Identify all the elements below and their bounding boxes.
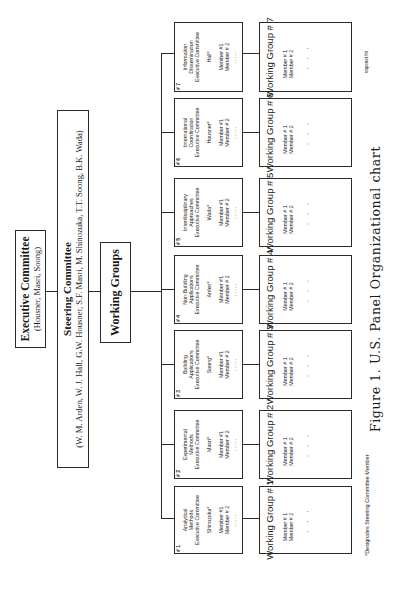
committee-box-4: # 4 Non-BuildingApplicationsExecutive Co… (174, 255, 243, 324)
committee-members: Member #1Member # 2 (218, 275, 230, 303)
committee-number: # 6 (175, 158, 181, 165)
working-group-title: Working Group # 7 (264, 17, 275, 97)
working-group-members: Member # 1Member # 2 (282, 437, 294, 465)
committee-name: InformationDisseminationExecutive Commit… (182, 32, 200, 82)
stub-committee-5 (161, 212, 174, 213)
stub-committee-7 (161, 53, 174, 54)
connector-wg-4 (243, 289, 259, 290)
committee-name: ExperimentalMethodsExecutive Committee (182, 419, 200, 469)
working-group-box-6: Working Group # 6 Member # 1Member # 2 .… (259, 98, 352, 167)
working-group-title: Working Group # 2 (264, 405, 275, 485)
committee-more: ..... (231, 438, 237, 451)
working-group-box-4: Working Group # 4 Member # 1Member # 2 .… (259, 255, 352, 324)
committee-members: Member #1Member # 2 (218, 430, 230, 458)
stub-committee-4 (161, 289, 174, 290)
steering-committee-box: Steering Committee (W. M. Arden, W. J. H… (57, 110, 89, 468)
committee-number: # 4 (175, 315, 181, 322)
committee-name: Non-BuildingApplicationsExecutive Commit… (182, 264, 200, 314)
figure-caption: Figure 1. U.S. Panel Organizational char… (368, 146, 383, 432)
working-group-members: Member # 1Member # 2 (282, 357, 294, 385)
footnote: *Designates Steering Committee Member (364, 455, 370, 557)
working-group-more: . . . (302, 200, 309, 225)
stub-committee-3 (161, 364, 174, 365)
committee-more: ..... (231, 283, 237, 296)
committee-box-7: # 7 InformationDisseminationExecutive Co… (174, 22, 243, 92)
committee-number: # 7 (175, 83, 181, 90)
connector-wg-3 (243, 364, 259, 365)
committee-name: BuildingApplicationsExecutive Committee (182, 339, 200, 389)
working-group-box-7: Working Group # 7 Member # 1Member # 2 .… (259, 22, 352, 92)
committee-more: ..... (231, 126, 237, 139)
stub-committee-2 (161, 444, 174, 445)
working-group-title: Working Group # 5 (264, 173, 275, 253)
committee-number: # 5 (175, 238, 181, 245)
committee-lead: Shinozuka* (206, 507, 212, 534)
committee-more: ..... (231, 206, 237, 219)
committee-members: Member #1Member # 2 (218, 350, 230, 378)
file-reference: vapenet.fm (364, 51, 369, 73)
committee-members: Member #1Member # 2 (218, 198, 230, 226)
stub-committee-1 (161, 518, 174, 519)
working-group-more: . . . (302, 352, 309, 377)
committee-name: AnalyticalMethodsExecutive Committee (182, 495, 200, 545)
committee-lead: Hall* (206, 51, 212, 62)
committee-number: # 1 (175, 545, 181, 552)
working-group-title: Working Group # 4 (264, 250, 275, 330)
working-groups-box: Working Groups (100, 242, 131, 343)
executive-committee-title: Executive Committee (19, 236, 32, 341)
committee-lead: Masri* (206, 437, 212, 452)
stub-committee-6 (161, 132, 174, 133)
connector-wg-7 (243, 53, 259, 54)
working-group-box-2: Working Group # 2 Member # 1Member # 2 .… (259, 410, 352, 479)
connector-wg-2 (243, 444, 259, 445)
committee-lead: Soong* (206, 356, 212, 373)
working-group-members: Member # 1Member # 2 (282, 513, 294, 541)
committee-more: ..... (231, 513, 237, 526)
executive-committee-box: Executive Committee (Housner, Masri, Soo… (15, 230, 46, 348)
committee-lead: Wada* (206, 205, 212, 221)
executive-committee-members: (Housner, Masri, Soong) (32, 247, 42, 331)
connector-wg-5 (243, 212, 259, 213)
committee-box-6: # 6 InternationalCoordinationExecutive C… (174, 98, 243, 167)
connector-wg-bus (131, 291, 161, 292)
committee-name: InterdisciplinaryApproachesExecutive Com… (182, 187, 200, 237)
bus-line (161, 53, 162, 519)
working-group-box-1: Working Group # 1 Member # 1Member # 2 .… (259, 486, 352, 554)
working-group-members: Member # 1Member # 2 (282, 282, 294, 310)
committee-box-5: # 5 InterdisciplinaryApproachesExecutive… (174, 178, 243, 247)
steering-committee-members: (W. M. Arden, W. J. Hall, G.W. Housner, … (74, 130, 85, 447)
working-group-more: . . . (302, 45, 309, 70)
committee-number: # 2 (175, 470, 181, 477)
working-group-more: . . . (302, 277, 309, 302)
committee-members: Member #1Member # 2 (218, 43, 230, 71)
committee-lead: Housner* (206, 121, 212, 143)
working-group-more: . . . (302, 120, 309, 145)
committee-number: # 3 (175, 390, 181, 397)
connector-wg-1 (243, 518, 259, 519)
org-chart: Executive Committee (Housner, Masri, Soo… (0, 0, 393, 600)
committee-box-1: # 1 AnalyticalMethodsExecutive Committee… (174, 486, 243, 554)
working-group-members: Member # 1Member # 2 (282, 125, 294, 153)
committee-box-2: # 2 ExperimentalMethodsExecutive Committ… (174, 410, 243, 479)
working-group-title: Working Group # 1 (264, 480, 275, 560)
committee-members: Member #1Member # 2 (218, 506, 230, 534)
committee-more: ..... (231, 358, 237, 371)
working-group-more: . . . (302, 432, 309, 457)
working-group-box-3: Working Group # 3 Member # 1Member # 2 .… (259, 330, 352, 399)
committee-members: Member #1Member # 2 (218, 118, 230, 146)
working-group-box-5: Working Group # 5 Member # 1Member # 2 .… (259, 178, 352, 247)
connector-wg-6 (243, 132, 259, 133)
working-group-title: Working Group # 3 (264, 325, 275, 405)
connector-exec-steering (46, 291, 57, 292)
connector-steering-wg (89, 291, 100, 292)
working-group-more: . . . (302, 508, 309, 533)
working-group-members: Member # 1Member # 2 (282, 205, 294, 233)
committee-lead: Arden* (206, 281, 212, 297)
committee-name: InternationalCoordinationExecutive Commi… (182, 107, 200, 157)
working-group-title: Working Group # 6 (264, 93, 275, 173)
working-group-members: Member # 1Member # 2 (282, 50, 294, 78)
committee-box-3: # 3 BuildingApplicationsExecutive Commit… (174, 330, 243, 399)
working-groups-title: Working Groups (108, 249, 123, 336)
committee-more: ..... (231, 50, 237, 63)
steering-committee-title: Steering Committee (61, 242, 74, 336)
